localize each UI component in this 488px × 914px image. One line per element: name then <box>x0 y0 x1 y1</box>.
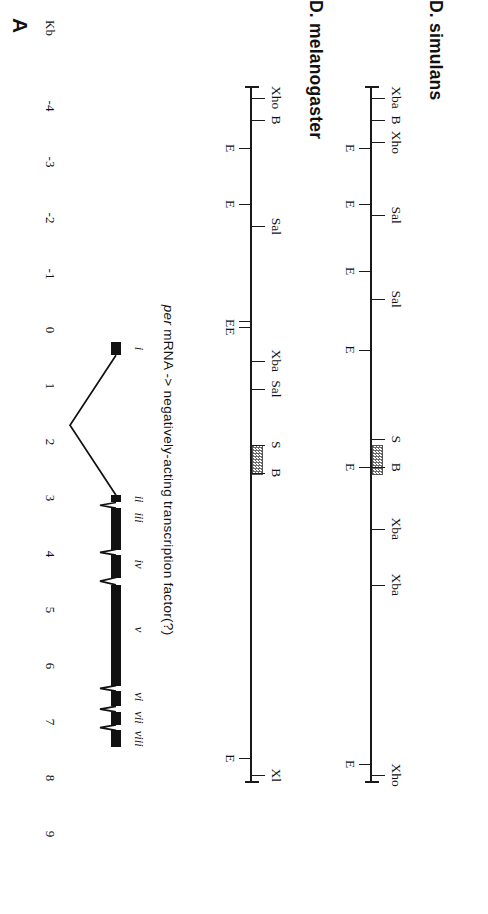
exon-label-vii: vii <box>131 711 146 724</box>
axis-tick-8: 8 <box>42 775 58 782</box>
intron-overlay <box>0 0 488 914</box>
panel-label-a: A <box>8 18 32 33</box>
axis-tick-7: 7 <box>42 719 58 726</box>
intron-iii-iv <box>100 550 116 556</box>
exon-label-iii: iii <box>131 512 146 522</box>
exon-label-iv: iv <box>131 560 146 569</box>
axis-tick-2: 2 <box>42 439 58 446</box>
axis-tick-1: 1 <box>42 383 58 390</box>
axis-tick-5: 5 <box>42 607 58 614</box>
exon-label-v: v <box>131 627 146 633</box>
intron-iv-v <box>100 578 116 585</box>
exon-label-vi: vi <box>131 692 146 701</box>
axis-tick-4: 4 <box>42 551 58 558</box>
intron-vi-vii <box>100 706 116 712</box>
axis-title-kb: Kb <box>42 20 58 36</box>
axis-tick--3: -3 <box>42 157 58 168</box>
axis-tick--1: -1 <box>42 269 58 280</box>
axis-tick-6: 6 <box>42 663 58 670</box>
axis-tick--2: -2 <box>42 213 58 224</box>
exon-label-ii: ii <box>131 496 146 503</box>
intron-v-vi <box>100 686 116 692</box>
exon-label-viii: viii <box>131 731 146 747</box>
exon-label-i: i <box>131 347 146 350</box>
axis-tick-0: 0 <box>42 327 58 334</box>
mrna-caption-gene-name: per <box>161 305 176 325</box>
axis-tick-9: 9 <box>42 831 58 838</box>
intron-ii-iii <box>100 502 116 508</box>
figure-canvas: D. simulansD. melanogasterXbaBXhoBXbaXba… <box>0 0 488 914</box>
mrna-caption-rest: mRNA -> negatively-acting transcription … <box>161 325 176 635</box>
intron-vii-viii <box>100 725 116 731</box>
mrna-caption: per mRNA -> negatively-acting transcript… <box>161 305 176 636</box>
axis-tick--4: -4 <box>42 101 58 112</box>
intron-i-ii <box>70 355 116 495</box>
axis-tick-3: 3 <box>42 495 58 502</box>
